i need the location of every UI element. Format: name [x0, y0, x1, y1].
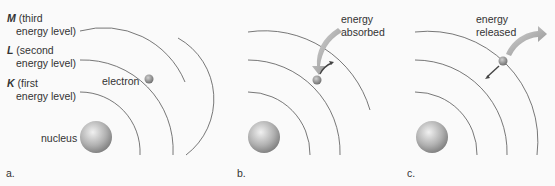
- panel-a-label: a.: [6, 167, 15, 180]
- orbit-m: [80, 28, 185, 82]
- level-m-label-2: energy level): [16, 25, 76, 38]
- panel-c-label: c.: [407, 167, 415, 180]
- electron-down-arrow: [487, 66, 499, 77]
- level-l-label-2: energy level): [16, 57, 76, 70]
- atom-diagram: [0, 0, 555, 186]
- electron-b: [313, 76, 322, 85]
- panel-b-label: b.: [237, 167, 246, 180]
- energy-absorbed-arrow: [312, 28, 342, 75]
- energy-absorbed-label-2: absorbed: [341, 26, 385, 39]
- nucleus-a: [80, 121, 112, 153]
- nucleus-c: [416, 121, 448, 153]
- energy-released-label-2: released: [476, 26, 516, 39]
- level-l-label: L (second: [7, 44, 54, 57]
- nucleus-b: [248, 121, 280, 153]
- energy-absorbed-label-1: energy: [341, 13, 373, 26]
- level-k-label-2: energy level): [16, 90, 76, 103]
- electron-c: [499, 57, 508, 66]
- energy-released-label-1: energy: [476, 13, 508, 26]
- level-m-label: M (third: [7, 12, 43, 25]
- electron-a: [145, 75, 154, 84]
- nucleus-label: nucleus: [41, 132, 77, 145]
- level-k-label: K (first: [7, 77, 38, 90]
- electron-label: electron: [102, 75, 139, 88]
